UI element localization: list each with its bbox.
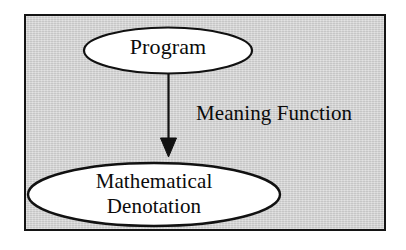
node-label-line-denotation: Denotation — [28, 196, 280, 218]
node-label-program: Program — [85, 36, 251, 59]
node-label-line-mathematical: Mathematical — [28, 171, 280, 193]
node-label-mathematical-denotation: Mathematical Denotation — [28, 171, 280, 218]
edge-label-meaning-function: Meaning Function — [196, 101, 352, 126]
arrowhead-icon — [161, 138, 177, 157]
diagram-canvas: Program Mathematical Denotation Meaning … — [0, 0, 406, 250]
